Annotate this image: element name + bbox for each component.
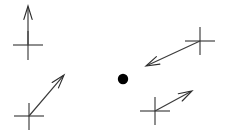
canvas-background <box>0 0 229 140</box>
vector-diagram <box>0 0 229 140</box>
filled-dot-icon[interactable] <box>118 74 128 84</box>
diagram-canvas <box>0 0 229 140</box>
